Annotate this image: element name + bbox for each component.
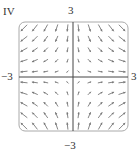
vector-field-plot xyxy=(0,0,140,155)
